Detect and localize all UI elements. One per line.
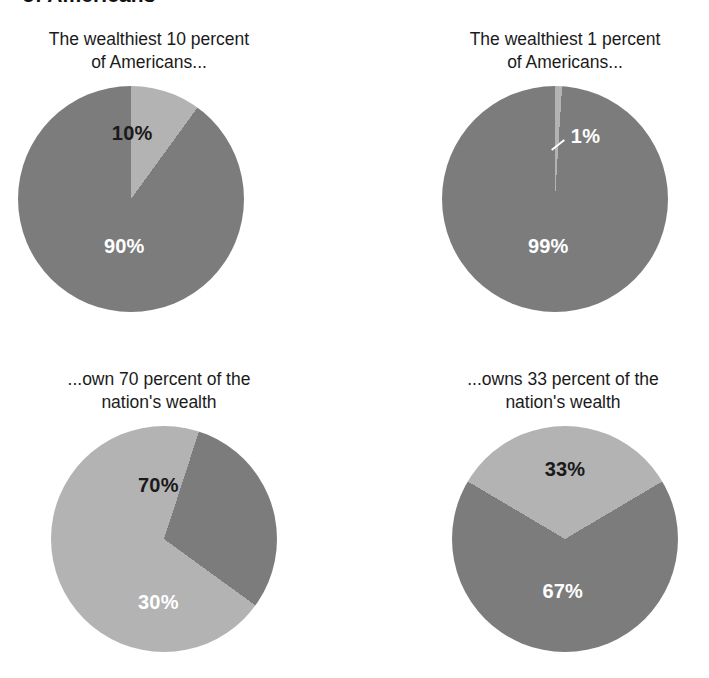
pie-slice-label-33: 33% (545, 457, 586, 480)
panel-bottom-right: ...owns 33 percent of the nation's wealt… (428, 368, 709, 652)
pie-slice-label-70: 70% (138, 473, 179, 496)
caption-line-1: ...owns 33 percent of the (432, 368, 694, 391)
pie-slice-label-67: 67% (542, 579, 583, 602)
caption-line-2: of Americans... (434, 51, 696, 74)
pie-wrap-top-left: 10% 90% (18, 86, 348, 312)
panel-top-left-caption: The wealthiest 10 percent of Americans..… (18, 28, 280, 74)
pie-slice-label-99: 99% (528, 235, 569, 258)
leader-line-icon (552, 139, 566, 150)
pie-slice-label-1: 1% (571, 124, 600, 147)
caption-line-1: The wealthiest 10 percent (18, 28, 280, 51)
pie-wrap-bottom-right: 33% 67% (428, 426, 709, 652)
pie-chart-1-99: 1% 99% (442, 86, 668, 312)
caption-line-2: nation's wealth (432, 391, 694, 414)
pie-wrap-bottom-left: 70% 30% (18, 426, 348, 652)
panel-top-right-caption: The wealthiest 1 percent of Americans... (434, 28, 696, 74)
panel-bottom-left-caption: ...own 70 percent of the nation's wealth (28, 368, 290, 414)
panel-bottom-right-caption: ...owns 33 percent of the nation's wealt… (432, 368, 694, 414)
panel-top-left: The wealthiest 10 percent of Americans..… (18, 28, 348, 312)
panel-top-right: The wealthiest 1 percent of Americans...… (428, 28, 709, 312)
panel-bottom-left: ...own 70 percent of the nation's wealth… (18, 368, 348, 652)
caption-line-2: of Americans... (18, 51, 280, 74)
caption-line-1: ...own 70 percent of the (28, 368, 290, 391)
pie-wrap-top-right: 1% 99% (428, 86, 709, 312)
pie-slice-label-10: 10% (112, 122, 153, 145)
caption-line-1: The wealthiest 1 percent (434, 28, 696, 51)
pie-chart-10-90: 10% 90% (18, 86, 244, 312)
pie-slice-label-90: 90% (104, 235, 145, 258)
pie-chart-70-30: 70% 30% (51, 426, 277, 652)
pie-slice-label-30: 30% (138, 591, 179, 614)
pie-chart-grid: The wealthiest 10 percent of Americans..… (0, 0, 709, 678)
pie-chart-33-67: 33% 67% (452, 426, 678, 652)
caption-line-2: nation's wealth (28, 391, 290, 414)
